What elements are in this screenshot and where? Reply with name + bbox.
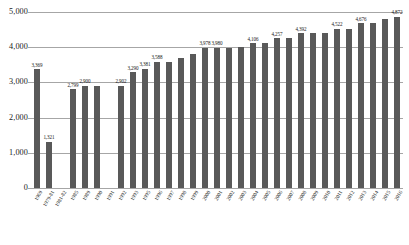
- bar-slot: 2,902: [118, 12, 125, 188]
- bar: [286, 38, 293, 188]
- bar-slot: [166, 12, 173, 188]
- x-axis-tick-label: 2016: [394, 190, 404, 202]
- x-axis-tick-label: 2008: [298, 190, 308, 202]
- y-axis-tick-label: 5,000: [0, 8, 28, 16]
- x-axis-tick-label: 2004: [250, 190, 260, 202]
- bar-slot: [58, 12, 65, 188]
- bar: [250, 43, 257, 188]
- bar-value-label: 2,799: [67, 83, 78, 88]
- y-axis-tick-mark: [28, 12, 31, 13]
- bar: [94, 86, 101, 188]
- bar-slot: [346, 12, 353, 188]
- bar-slot: [310, 12, 317, 188]
- bar-value-label: 4,257: [271, 32, 282, 37]
- bar-slot: [382, 12, 389, 188]
- x-axis-tick-label: 2001: [214, 190, 224, 202]
- x-axis-tick-label: 2007: [286, 190, 296, 202]
- bar-slot: 4,257: [274, 12, 281, 188]
- x-axis-tick-label: 1998: [178, 190, 188, 202]
- y-axis-tick-mark: [28, 118, 31, 119]
- bar: [346, 29, 353, 188]
- bar-slot: 3,369: [34, 12, 41, 188]
- bar-slot: [322, 12, 329, 188]
- bar: [214, 48, 221, 188]
- bar-value-label: 3,588: [151, 55, 162, 60]
- bar-value-label: 3,980: [211, 41, 222, 46]
- bar: [178, 58, 185, 188]
- x-axis-tick-label: 1993: [130, 190, 140, 202]
- bar-slot: 3,588: [154, 12, 161, 188]
- bar: [334, 29, 341, 188]
- y-axis-tick-label: 0: [0, 184, 28, 192]
- bar-slot: 2,799: [70, 12, 77, 188]
- y-axis-tick-label: 4,000: [0, 43, 28, 51]
- bar-value-label: 1,321: [43, 135, 54, 140]
- bar-slot: 4,522: [334, 12, 341, 188]
- x-axis-tick-label: 2013: [358, 190, 368, 202]
- bar-slot: [178, 12, 185, 188]
- bar-slot: 4,676: [358, 12, 365, 188]
- bar-value-label: 2,902: [115, 79, 126, 84]
- x-axis-tick-label: 1990: [94, 190, 104, 202]
- bar-slot: 3,978: [202, 12, 209, 188]
- x-axis-tick-label: 1996: [154, 190, 164, 202]
- bar: [166, 62, 173, 188]
- bar-slot: 4,392: [298, 12, 305, 188]
- bar: [274, 38, 281, 188]
- bar-value-label: 4,872: [391, 10, 402, 15]
- x-axis-tick-label: 2015: [382, 190, 392, 202]
- y-axis-tick-mark: [28, 188, 31, 189]
- x-axis-tick-label: 1989: [82, 190, 92, 202]
- bar: [262, 43, 269, 188]
- bar-slot: 1,321: [46, 12, 53, 188]
- bar: [34, 69, 41, 188]
- bar: [226, 48, 233, 188]
- y-axis-tick-mark: [28, 47, 31, 48]
- x-axis-tick-label: 1969: [34, 190, 44, 202]
- x-axis-labels: 19691979-811981-821985198919901991199219…: [31, 190, 403, 245]
- bar: [130, 72, 137, 188]
- bar: [190, 54, 197, 188]
- x-axis-tick-label: 2011: [334, 190, 344, 201]
- x-axis-tick-label: 1999: [190, 190, 200, 202]
- bar: [142, 69, 149, 188]
- bar-slot: [262, 12, 269, 188]
- bar-series: 3,3691,3212,7992,9002,9023,2903,3813,588…: [31, 12, 403, 188]
- y-axis-tick-label: 2,000: [0, 113, 28, 121]
- bar: [382, 19, 389, 188]
- x-axis-tick-label: 2010: [322, 190, 332, 202]
- x-axis-tick-label: 2012: [346, 190, 356, 202]
- bar-value-label: 4,522: [331, 22, 342, 27]
- bar: [322, 33, 329, 188]
- bar: [202, 48, 209, 188]
- x-axis-tick-label: 1997: [166, 190, 176, 202]
- bar-slot: [190, 12, 197, 188]
- x-axis-tick-label: 2009: [310, 190, 320, 202]
- bar: [298, 33, 305, 188]
- bar-value-label: 3,381: [139, 62, 150, 67]
- bar-value-label: 3,978: [199, 41, 210, 46]
- plot-area: 3,3691,3212,7992,9002,9023,2903,3813,588…: [31, 12, 403, 188]
- bar-slot: [226, 12, 233, 188]
- bar-slot: 2,900: [82, 12, 89, 188]
- x-axis-tick-label: 2014: [370, 190, 380, 202]
- bar-value-label: 2,900: [79, 79, 90, 84]
- bar: [394, 17, 401, 188]
- bar-slot: [286, 12, 293, 188]
- x-axis-tick-label: 1995: [142, 190, 152, 202]
- x-axis-tick-label: 2006: [274, 190, 284, 202]
- bar-slot: 3,980: [214, 12, 221, 188]
- bar: [70, 89, 77, 188]
- bar: [46, 142, 53, 188]
- y-axis-tick-label: 3,000: [0, 78, 28, 86]
- x-axis-tick-label: 1981-82: [54, 190, 67, 208]
- x-axis-tick-label: 2005: [262, 190, 272, 202]
- bar: [310, 33, 317, 188]
- bar: [370, 23, 377, 188]
- bar-slot: 4,106: [250, 12, 257, 188]
- y-axis-tick-mark: [28, 153, 31, 154]
- bar-value-label: 4,106: [247, 37, 258, 42]
- x-axis-tick-label: 1992: [118, 190, 128, 202]
- x-axis-tick-label: 1985: [70, 190, 80, 202]
- bar: [238, 47, 245, 188]
